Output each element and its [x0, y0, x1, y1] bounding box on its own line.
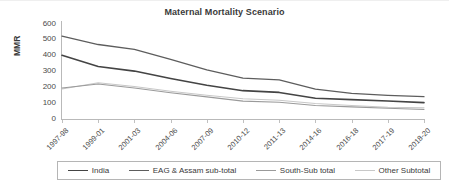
- legend-item[interactable]: South-Sub total: [256, 166, 335, 175]
- legend-item[interactable]: Other Subtotal: [355, 166, 431, 175]
- series-line: [62, 36, 424, 96]
- legend-item-label: India: [92, 166, 109, 175]
- series-line: [62, 84, 424, 109]
- legend-item-label: Other Subtotal: [379, 166, 431, 175]
- chart-container: Maternal Mortality Scenario MMR 60050040…: [0, 0, 449, 189]
- legend-line-swatch: [256, 170, 276, 171]
- legend-line-swatch: [68, 170, 88, 171]
- legend-item-label: EAG & Assam sub-total: [153, 166, 237, 175]
- series-line: [62, 55, 424, 102]
- legend-item-label: South-Sub total: [280, 166, 335, 175]
- chart-legend: IndiaEAG & Assam sub-totalSouth-Sub tota…: [57, 161, 441, 180]
- legend-line-swatch: [129, 170, 149, 171]
- legend-item[interactable]: EAG & Assam sub-total: [129, 166, 237, 175]
- legend-line-swatch: [355, 170, 375, 171]
- legend-item[interactable]: India: [68, 166, 109, 175]
